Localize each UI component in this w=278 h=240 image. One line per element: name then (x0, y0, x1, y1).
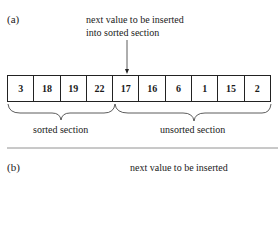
sorted-section-label: sorted section (33, 124, 88, 135)
array-row: 3 18 19 22 17 16 6 1 15 2 (7, 75, 271, 102)
sorted-brace (8, 104, 115, 120)
unsorted-brace (115, 104, 271, 121)
array-cell: 16 (139, 76, 165, 101)
array-cell: 15 (218, 76, 244, 101)
array-cell: 6 (166, 76, 192, 101)
array-cell: 17 (113, 76, 139, 101)
panel-b-label: (b) (7, 162, 20, 173)
array-cell: 3 (8, 76, 34, 101)
array-cell: 19 (61, 76, 87, 101)
array-cell: 1 (192, 76, 218, 101)
array-cell: 2 (245, 76, 270, 101)
pointer-arrow-head (125, 69, 129, 74)
unsorted-section-label: unsorted section (160, 124, 225, 135)
array-cell: 22 (87, 76, 113, 101)
panel-b-pointer-caption: next value to be inserted (130, 162, 228, 173)
array-cell: 18 (34, 76, 60, 101)
